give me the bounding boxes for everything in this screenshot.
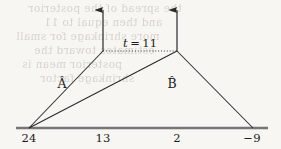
label-b-hat: B̂	[167, 78, 176, 91]
label-a-hat: Â	[57, 78, 66, 91]
segment-right-apex-to-foot	[177, 51, 253, 128]
tick-label-13: 13	[95, 133, 110, 145]
tick-label-24: 24	[21, 133, 36, 145]
figure-container: the spread of the posterior and then equ…	[0, 0, 281, 149]
level-line-equals: =	[130, 36, 140, 50]
tick-label-2: 2	[173, 133, 181, 145]
figure-drawing	[0, 0, 281, 149]
level-line-value: 11	[142, 36, 157, 50]
level-line-variable: t	[123, 36, 128, 50]
tick-label-minus-9: −9	[243, 133, 260, 145]
segment-origin-to-right-apex	[29, 51, 177, 128]
level-line-label: t=11	[123, 38, 157, 50]
